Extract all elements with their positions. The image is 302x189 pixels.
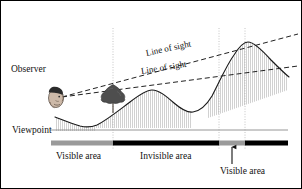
visibility-segment-visible-right — [219, 141, 245, 146]
line-of-sight-diagram: Observer Viewpoint Line of sight Line of… — [0, 0, 302, 189]
visible-area-left-label: Visible area — [56, 152, 101, 162]
viewpoint-label: Viewpoint — [12, 126, 52, 136]
visibility-segment-invisible-far — [245, 141, 288, 146]
observer-head-icon — [49, 87, 64, 108]
observer-label: Observer — [11, 65, 46, 75]
invisible-area-label: Invisible area — [140, 152, 191, 162]
visible-area-right-label: Visible area — [220, 167, 265, 177]
visibility-segment-visible-left — [51, 141, 113, 146]
visibility-segment-invisible — [113, 141, 219, 146]
visibility-bar — [51, 141, 288, 146]
